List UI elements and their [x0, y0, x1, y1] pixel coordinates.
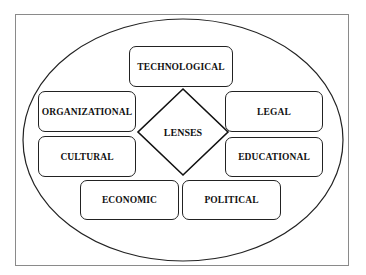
lens-label: CULTURAL [60, 152, 113, 162]
lens-box-organizational: ORGANIZATIONAL [38, 91, 136, 132]
center-label: LENSES [164, 127, 202, 138]
lens-label: POLITICAL [204, 195, 258, 205]
lens-label: EDUCATIONAL [238, 152, 310, 162]
lens-box-educational: EDUCATIONAL [225, 137, 323, 177]
lens-box-legal: LEGAL [225, 91, 323, 132]
lens-box-technological: TECHNOLOGICAL [129, 46, 233, 87]
lens-label: ECONOMIC [102, 195, 157, 205]
lens-label: ORGANIZATIONAL [42, 107, 132, 117]
lens-box-economic: ECONOMIC [80, 180, 179, 220]
lens-label: TECHNOLOGICAL [137, 62, 224, 72]
lens-box-cultural: CULTURAL [38, 136, 136, 177]
lens-label: LEGAL [257, 107, 291, 117]
lens-box-political: POLITICAL [182, 180, 281, 220]
